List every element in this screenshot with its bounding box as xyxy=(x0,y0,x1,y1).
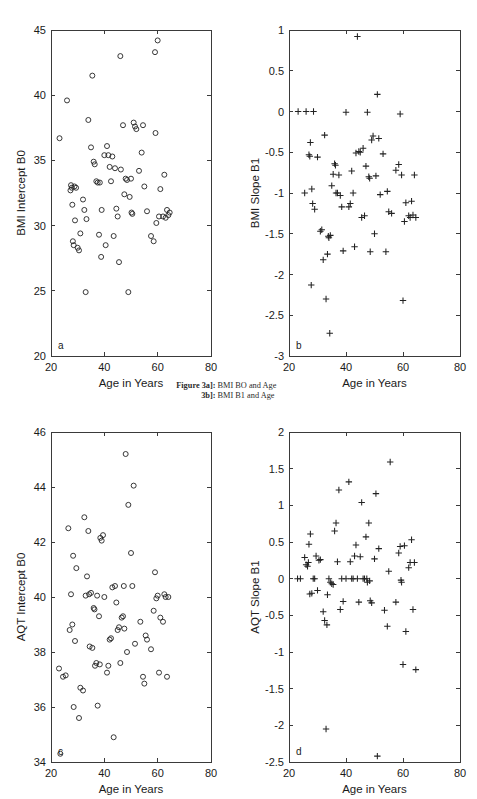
data-point xyxy=(151,239,156,244)
data-point xyxy=(383,248,389,254)
data-point xyxy=(99,254,104,259)
data-point xyxy=(306,541,312,547)
panel-letter: a xyxy=(58,340,64,351)
data-point xyxy=(314,587,320,593)
data-point xyxy=(320,257,326,263)
data-point xyxy=(57,666,62,671)
data-point xyxy=(336,487,342,493)
data-point xyxy=(102,595,107,600)
data-point xyxy=(351,553,357,559)
y-tick-label: 0.5 xyxy=(269,65,284,77)
data-point xyxy=(83,290,88,295)
y-tick-label: 46 xyxy=(34,426,46,438)
data-point xyxy=(377,191,383,197)
data-point xyxy=(105,144,110,149)
data-point xyxy=(153,50,158,55)
data-point xyxy=(358,499,364,505)
data-point xyxy=(343,575,349,581)
data-point xyxy=(73,218,78,223)
y-tick-label: 36 xyxy=(34,701,46,713)
data-point xyxy=(105,670,110,675)
data-point xyxy=(406,213,412,219)
data-point xyxy=(331,528,337,534)
data-point xyxy=(329,182,335,188)
data-point xyxy=(384,188,390,194)
x-tick-label: 40 xyxy=(98,361,110,373)
y-tick-label: -1.5 xyxy=(265,683,284,695)
data-point xyxy=(366,175,372,181)
y-tick-label: 34 xyxy=(34,756,46,768)
data-point xyxy=(356,599,362,605)
y-tick-label: -3 xyxy=(274,350,284,362)
data-point xyxy=(149,647,154,652)
data-point xyxy=(333,520,339,526)
data-point xyxy=(109,179,114,184)
data-point xyxy=(311,206,317,212)
plot-box xyxy=(289,432,460,762)
data-point xyxy=(350,190,356,196)
data-point xyxy=(145,209,150,214)
data-point xyxy=(313,553,319,559)
data-point xyxy=(339,204,345,210)
data-point xyxy=(162,172,167,177)
data-point xyxy=(393,167,399,173)
data-point xyxy=(384,623,390,629)
data-point xyxy=(109,636,114,641)
caption-line-1-text: BMI BO and Age xyxy=(218,381,277,390)
data-point xyxy=(67,628,72,633)
x-axis-title: Age in Years xyxy=(99,783,164,795)
x-tick-label: 60 xyxy=(152,361,164,373)
caption-line-2-text: BMI B1 and Age xyxy=(218,391,275,400)
data-point xyxy=(122,626,127,631)
data-point xyxy=(121,584,126,589)
y-tick-label: 40 xyxy=(34,89,46,101)
data-point xyxy=(351,244,357,250)
data-point xyxy=(57,136,62,141)
y-tick-label: -2 xyxy=(274,719,284,731)
y-tick-label: 0.5 xyxy=(269,536,284,548)
y-tick-label: -1.5 xyxy=(265,228,284,240)
data-point xyxy=(107,164,112,169)
data-point xyxy=(95,703,100,708)
data-point xyxy=(142,681,147,686)
x-tick-label: 60 xyxy=(152,767,164,779)
y-tick-label: 42 xyxy=(34,536,46,548)
data-point xyxy=(376,135,382,141)
data-point xyxy=(368,137,374,143)
data-point xyxy=(323,726,329,732)
data-point xyxy=(406,564,412,570)
data-point xyxy=(301,554,307,560)
data-point xyxy=(400,661,406,667)
y-tick-label: 1.5 xyxy=(269,463,284,475)
data-point xyxy=(358,214,364,220)
data-point xyxy=(151,608,156,613)
y-axis-title: BMI Slope B1 xyxy=(249,158,261,228)
plot-box xyxy=(289,30,460,356)
data-point xyxy=(357,149,363,155)
data-point xyxy=(127,194,132,199)
data-point xyxy=(82,207,87,212)
data-point xyxy=(295,108,301,114)
data-point xyxy=(408,537,414,543)
caption-line-2: 3b]: BMI B1 and Age xyxy=(0,391,477,401)
data-point xyxy=(149,234,154,239)
data-point xyxy=(66,526,71,531)
data-point xyxy=(326,575,332,581)
x-tick-label: 60 xyxy=(397,767,409,779)
data-point xyxy=(84,217,89,222)
data-point xyxy=(81,197,86,202)
caption-line-1-lead: Figure 3a]: xyxy=(164,381,216,391)
data-point xyxy=(396,550,402,556)
data-point xyxy=(349,168,355,174)
y-axis-title: AQT Slope B1 xyxy=(249,560,261,633)
data-point xyxy=(307,531,313,537)
data-point xyxy=(330,171,336,177)
chart-panel-c: 2040608034363840424446cAge in YearsAQT I… xyxy=(0,414,238,796)
data-point xyxy=(133,641,138,646)
data-points xyxy=(57,38,172,295)
data-point xyxy=(347,200,353,206)
data-point xyxy=(364,109,370,115)
data-point xyxy=(157,670,162,675)
panel-letter: c xyxy=(58,746,63,757)
data-point xyxy=(77,716,82,721)
